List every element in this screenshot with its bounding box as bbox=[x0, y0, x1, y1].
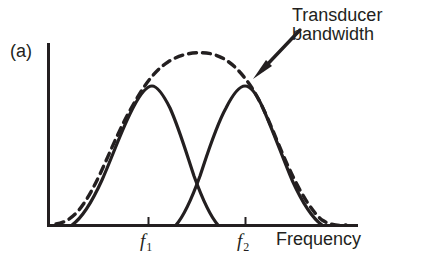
x-tick-label-f1-symbol: f bbox=[140, 230, 145, 251]
x-axis-title: Frequency bbox=[276, 230, 361, 249]
element-response-curve-f1 bbox=[72, 86, 218, 225]
x-tick-label-f2-symbol: f bbox=[237, 230, 242, 251]
panel-label: (a) bbox=[10, 42, 32, 61]
annotation-line-1: Transducer bbox=[292, 6, 382, 25]
figure-panel: (a) Transducer bandwidth f1 f2 Frequency bbox=[0, 0, 421, 274]
x-tick-label-f2-subscript: 2 bbox=[243, 240, 249, 254]
annotation-line-2: bandwidth bbox=[292, 25, 382, 44]
element-response-curve-f2 bbox=[176, 86, 322, 225]
x-tick-label-f2: f2 bbox=[237, 231, 248, 252]
x-tick-label-f1-subscript: 1 bbox=[146, 240, 152, 254]
annotation-transducer-bandwidth: Transducer bandwidth bbox=[292, 6, 382, 45]
x-tick-label-f1: f1 bbox=[140, 231, 151, 252]
